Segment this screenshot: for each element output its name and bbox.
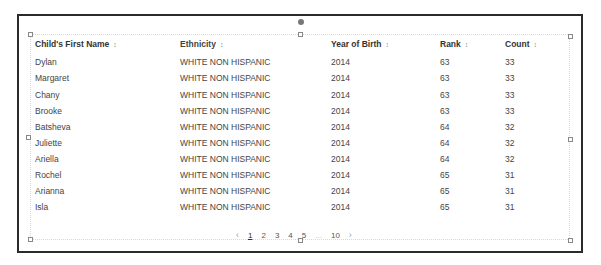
column-header-first-name[interactable]: Child's First Name↕ (35, 35, 117, 54)
cell-count: 33 (505, 69, 514, 87)
next-page-icon[interactable]: › (349, 230, 352, 240)
cell-rank: 65 (440, 198, 449, 216)
page-3-button[interactable]: 3 (275, 231, 279, 240)
cell-year: 2014 (331, 198, 350, 216)
page-2-button[interactable]: 2 (261, 231, 265, 240)
pagination: ‹ 1 2 3 4 5 ... 10 › (236, 228, 361, 242)
column-header-year-of-birth[interactable]: Year of Birth↕ (331, 35, 389, 54)
table-row: Isla WHITE NON HISPANIC 2014 65 31 (0, 198, 601, 216)
sort-icon[interactable]: ↕ (220, 41, 224, 48)
table-row: Margaret WHITE NON HISPANIC 2014 63 33 (0, 69, 601, 87)
cell-rank: 63 (440, 69, 449, 87)
resize-handle-bottom-left[interactable] (28, 237, 33, 242)
sort-icon[interactable]: ↕ (386, 41, 390, 48)
prev-page-icon[interactable]: ‹ (236, 230, 239, 240)
cell-ethnicity: WHITE NON HISPANIC (180, 69, 271, 87)
column-header-ethnicity[interactable]: Ethnicity↕ (180, 35, 223, 54)
page-10-button[interactable]: 10 (331, 231, 340, 240)
page-5-button[interactable]: 5 (302, 231, 306, 240)
column-header-rank[interactable]: Rank↕ (440, 35, 468, 54)
column-header-count[interactable]: Count↕ (505, 35, 537, 54)
cell-ethnicity: WHITE NON HISPANIC (180, 198, 271, 216)
sort-icon[interactable]: ↕ (534, 41, 538, 48)
page-4-button[interactable]: 4 (288, 231, 292, 240)
cell-first-name: Isla (35, 198, 48, 216)
table-header: Child's First Name↕ Ethnicity↕ Year of B… (0, 35, 601, 53)
resize-handle-bottom-right[interactable] (568, 238, 573, 243)
sort-icon[interactable]: ↕ (465, 41, 469, 48)
rotate-handle[interactable] (298, 19, 304, 25)
cell-count: 31 (505, 198, 514, 216)
sort-icon[interactable]: ↕ (113, 41, 117, 48)
cell-first-name: Margaret (35, 69, 69, 87)
cell-year: 2014 (331, 69, 350, 87)
page-1-button[interactable]: 1 (248, 231, 252, 240)
pagination-ellipsis: ... (315, 231, 322, 240)
